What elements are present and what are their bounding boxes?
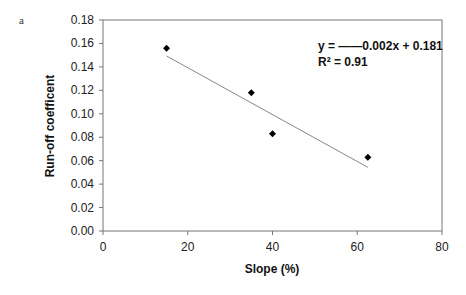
y-tick-label: 0.04	[71, 177, 95, 191]
scatter-chart: 0.000.020.040.060.080.100.120.140.160.18…	[0, 0, 466, 295]
y-tick-label: 0.02	[71, 201, 95, 215]
data-point-diamond-icon	[163, 45, 170, 52]
r-squared-label: R² = 0.91	[318, 55, 368, 69]
y-tick-label: 0.08	[71, 130, 95, 144]
x-tick-label: 0	[100, 240, 107, 254]
y-tick-label: 0.10	[71, 107, 95, 121]
y-axis-title: Run-off coefficent	[43, 75, 57, 178]
y-tick-label: 0.18	[71, 13, 95, 27]
y-tick-label: 0.12	[71, 83, 95, 97]
x-tick-label: 60	[351, 240, 365, 254]
y-tick-label: 0.16	[71, 36, 95, 50]
trendline	[167, 56, 368, 167]
data-point-diamond-icon	[248, 89, 255, 96]
data-point-diamond-icon	[364, 154, 371, 161]
x-tick-label: 20	[181, 240, 195, 254]
y-tick-label: 0.14	[71, 60, 95, 74]
y-tick-label: 0.00	[71, 224, 95, 238]
trendline-equation: y = ——0.002x + 0.181	[318, 39, 443, 53]
x-tick-label: 40	[266, 240, 280, 254]
x-axis-title: Slope (%)	[245, 262, 300, 276]
data-point-diamond-icon	[269, 130, 276, 137]
y-tick-label: 0.06	[71, 154, 95, 168]
x-tick-label: 80	[435, 240, 449, 254]
